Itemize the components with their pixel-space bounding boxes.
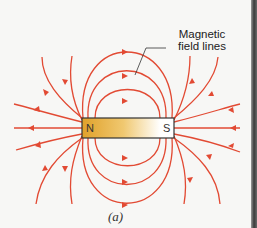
- field-lines-label-line1: Magnetic: [166, 28, 238, 40]
- north-pole-label: N: [86, 122, 94, 134]
- magnet-diagram: N S Magnetic field lines (a): [0, 0, 257, 228]
- south-pole-label: S: [163, 122, 170, 134]
- field-lines-label: Magnetic field lines: [166, 28, 238, 52]
- figure-caption: (a): [108, 209, 123, 225]
- page-binding-edge: [251, 0, 257, 228]
- field-lines-label-line2: field lines: [166, 40, 238, 52]
